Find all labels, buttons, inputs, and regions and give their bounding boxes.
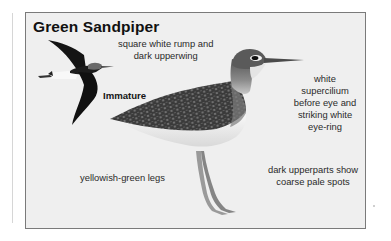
annotation-line: white [284, 73, 366, 85]
immature-caption: Immature [103, 90, 146, 102]
field-guide-page: Green Sandpiper square white rump and da… [0, 0, 391, 241]
annotation-line: coarse pale spots [263, 176, 363, 188]
annotation-line: dark upperwing [118, 50, 213, 62]
scan-speck [373, 205, 375, 207]
standing-bird-icon [110, 49, 304, 215]
annotation-line: supercilium [284, 85, 366, 97]
species-title: Green Sandpiper [33, 18, 159, 36]
annotation-legs: yellowish-green legs [80, 172, 165, 184]
flying-bird-icon [38, 40, 114, 125]
annotation-line: striking white [284, 109, 366, 121]
annotation-line: before eye and [284, 97, 366, 109]
margin-rule [12, 13, 13, 223]
species-panel: Green Sandpiper square white rump and da… [25, 12, 366, 229]
annotation-line: dark upperparts show [263, 164, 363, 176]
annotation-supercilium: white supercilium before eye and strikin… [284, 73, 366, 133]
annotation-upperparts: dark upperparts show coarse pale spots [263, 164, 363, 188]
annotation-flight-rump: square white rump and dark upperwing [118, 38, 213, 62]
annotation-line: square white rump and [118, 38, 213, 50]
annotation-line: eye-ring [284, 121, 366, 133]
